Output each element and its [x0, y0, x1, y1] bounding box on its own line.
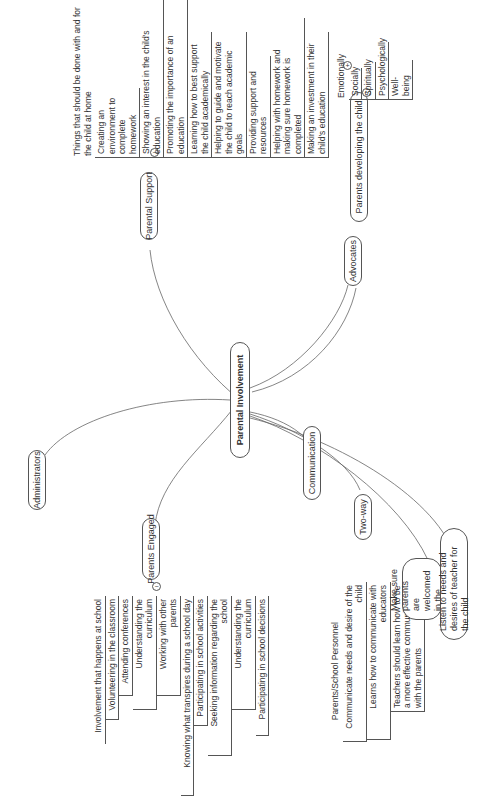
list-item[interactable]: Helping to guide and motivate the child …	[212, 32, 247, 158]
parental-support-node[interactable]: Parental Support	[140, 172, 158, 240]
list-item[interactable]: Creating an environment to complete home…	[95, 88, 140, 158]
parents-developing-label: Parents developing the child	[354, 100, 364, 213]
central-topic-label: Parental Involvement	[235, 355, 245, 446]
parents-developing-list: Emotionally Socially Spiritually Psychol…	[336, 40, 413, 100]
list-item[interactable]: Showing an interest in the child's educa…	[140, 0, 164, 158]
list-item[interactable]: Seeking information regarding the school	[208, 596, 232, 756]
two-way-header: Parents/School Personnel	[330, 582, 343, 752]
parents-engaged-label: Parents Engaged	[146, 514, 156, 584]
list-item[interactable]: Promoting the importance of an education	[164, 0, 188, 158]
list-item[interactable]: Psychologically	[376, 42, 390, 100]
list-item[interactable]: Learning how to best support the child a…	[188, 32, 212, 158]
parental-support-label: Parental Support	[144, 172, 154, 240]
list-item[interactable]: Helping with homework and making sure ho…	[271, 18, 306, 158]
listen-node[interactable]: Listen to needs and desires of teacher f…	[440, 528, 468, 640]
list-item[interactable]: Attending conferences	[119, 596, 133, 696]
list-item[interactable]: Involvement that happens at school	[92, 596, 106, 744]
parents-engaged-collapse-toggle[interactable]: −	[152, 582, 161, 591]
administrators-label: Administrators	[32, 451, 42, 509]
list-item[interactable]: Well-being	[389, 60, 413, 100]
parents-developing-node[interactable]: Parents developing the child	[350, 92, 368, 222]
list-item[interactable]: Working with other parents	[157, 596, 181, 696]
two-way-label: Two-way	[358, 499, 368, 535]
parents-engaged-list: Involvement that happens at school Volun…	[92, 596, 269, 796]
communication-node[interactable]: Communication	[303, 426, 321, 500]
list-item[interactable]: Communicate needs and desire of the chil…	[343, 582, 367, 742]
list-item[interactable]: Socially	[349, 68, 363, 100]
central-topic-node[interactable]: Parental Involvement	[230, 342, 250, 458]
list-item[interactable]: Learns how to communicate with educators	[367, 582, 391, 740]
list-item[interactable]: Knowing what transpires during a school …	[181, 596, 195, 796]
toggle-glyph: −	[154, 583, 158, 590]
parents-engaged-node[interactable]: Parents Engaged	[142, 518, 160, 580]
listen-label: Listen to needs and desires of teacher f…	[438, 537, 471, 631]
list-item[interactable]: Understanding the curriculum	[232, 596, 256, 710]
list-item[interactable]: Spiritually	[362, 62, 376, 100]
list-item[interactable]: Providing support and resources	[247, 56, 271, 158]
advocates-node[interactable]: Advocates	[344, 236, 362, 286]
parental-support-list: Things that should be done with and for …	[72, 0, 329, 158]
communication-label: Communication	[307, 432, 317, 495]
list-item[interactable]: Participating in school decisions	[256, 596, 270, 736]
welcomed-node[interactable]: Make sure parents are welcomed in the sc…	[402, 558, 442, 620]
emotionally-label[interactable]: Emotionally	[336, 40, 349, 100]
administrators-node[interactable]: Administrators	[28, 450, 46, 510]
list-item[interactable]: Making an investment in their child's ed…	[305, 32, 329, 158]
advocates-label: Advocates	[348, 240, 358, 282]
list-item[interactable]: Participating in school activities	[194, 596, 208, 726]
list-item[interactable]: Volunteering in the classroom	[106, 596, 120, 720]
list-item[interactable]: Understanding the curriculum	[133, 596, 157, 710]
parental-support-header: Things that should be done with and for …	[72, 0, 95, 158]
two-way-node[interactable]: Two-way	[354, 494, 372, 540]
